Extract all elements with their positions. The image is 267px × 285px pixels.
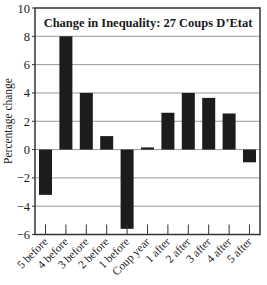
bar [243, 150, 256, 163]
bar [141, 147, 154, 149]
y-tick-label: 4 [24, 86, 31, 100]
y-tick-label: −6 [17, 228, 30, 242]
chart-canvas: −6−4−20246810 5 before4 before3 before2 … [0, 0, 267, 285]
bar [182, 93, 195, 150]
y-tick-label: −4 [17, 200, 31, 214]
y-tick-label: −2 [17, 171, 30, 185]
bar [161, 113, 174, 150]
bar [59, 36, 72, 149]
chart-title: Change in Inequality: 27 Coups D’Etat [44, 16, 254, 30]
x-axis-ticks: 5 before4 before3 before2 before1 before… [15, 225, 254, 279]
y-axis-label: Percentage change [2, 78, 15, 164]
y-tick-label: 0 [24, 143, 30, 157]
bar [223, 113, 236, 149]
bar [80, 93, 93, 150]
bar [39, 150, 52, 195]
y-tick-label: 10 [18, 2, 31, 16]
bar [202, 98, 215, 150]
y-tick-label: 2 [24, 115, 30, 129]
bar [121, 150, 134, 229]
bars [39, 36, 256, 229]
y-axis-ticks: −6−4−20246810 [17, 2, 35, 243]
y-tick-label: 8 [24, 30, 30, 44]
bar-chart: −6−4−20246810 5 before4 before3 before2 … [0, 0, 267, 285]
y-tick-label: 6 [24, 58, 30, 72]
bar [100, 136, 113, 149]
